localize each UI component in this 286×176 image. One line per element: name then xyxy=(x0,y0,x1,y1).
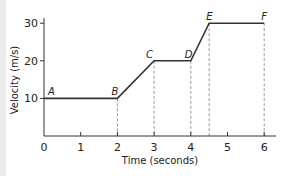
point-label-c: C xyxy=(146,49,153,60)
y-tick-label: 20 xyxy=(24,55,38,68)
point-label-d: D xyxy=(185,49,193,60)
x-tick-label: 2 xyxy=(114,141,121,154)
x-axis-title: Time (seconds) xyxy=(121,155,198,166)
y-axis-title: Velocity (m/s) xyxy=(9,46,20,115)
x-tick-label: 1 xyxy=(77,141,84,154)
y-ticks: 102030 xyxy=(24,17,44,105)
point-labels: ABCDEF xyxy=(47,11,267,97)
y-tick-label: 10 xyxy=(24,92,38,105)
point-label-b: B xyxy=(111,86,118,97)
dashed-guides xyxy=(117,23,264,136)
point-label-a: A xyxy=(47,86,55,97)
x-tick-label: 3 xyxy=(151,141,158,154)
y-tick-label: 30 xyxy=(24,17,38,30)
point-label-e: E xyxy=(206,11,213,22)
velocity-time-chart: 0123456 102030 ABCDEF Time (seconds) Vel… xyxy=(0,0,286,176)
x-tick-label: 0 xyxy=(41,141,48,154)
x-tick-label: 6 xyxy=(261,141,268,154)
x-ticks: 0123456 xyxy=(41,132,268,154)
x-tick-label: 4 xyxy=(187,141,194,154)
point-label-f: F xyxy=(261,11,267,22)
x-tick-label: 5 xyxy=(224,141,231,154)
